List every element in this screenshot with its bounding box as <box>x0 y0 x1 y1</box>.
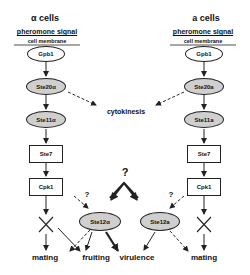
outcome-fruiting: fruiting <box>82 253 110 262</box>
node-ste12-a: Ste12a <box>140 212 180 231</box>
node-ste11-alpha: Ste11α <box>26 111 66 128</box>
pheromone-signal-right: pheromone signal <box>173 28 233 35</box>
node-ste7-a: Ste7 <box>187 145 221 163</box>
node-ste20-alpha: Ste20α <box>26 78 66 95</box>
node-cpk1-a: Cpk1 <box>187 178 221 196</box>
a-cells-title: a cells <box>192 13 220 23</box>
node-ste12-alpha: Ste12α <box>79 212 121 231</box>
central-question-mark: ? <box>122 166 129 178</box>
outcome-mating-left: mating <box>32 253 58 262</box>
node-gpb1-a: Gpb1 <box>185 46 223 62</box>
node-ste7-alpha: Ste7 <box>29 145 63 163</box>
alpha-cells-title: α cells <box>31 13 59 23</box>
cell-membrane-left: cell membrane <box>28 38 67 44</box>
outcome-virulence: virulence <box>119 253 154 262</box>
cytokinesis-label: cytokinesis <box>107 108 145 115</box>
question-mark-left: ? <box>85 190 90 199</box>
pheromone-signal-left: pheromone signal <box>17 28 77 35</box>
node-ste11-a: Ste11a <box>184 111 224 128</box>
node-cpk1-alpha: Cpk1 <box>29 178 63 196</box>
node-gpb1-alpha: Gpb1 <box>27 46 65 62</box>
question-mark-right: ? <box>169 190 174 199</box>
node-ste20-a: Ste20a <box>184 78 224 95</box>
cell-membrane-right: cell membrane <box>184 38 223 44</box>
outcome-mating-right: mating <box>191 253 217 262</box>
